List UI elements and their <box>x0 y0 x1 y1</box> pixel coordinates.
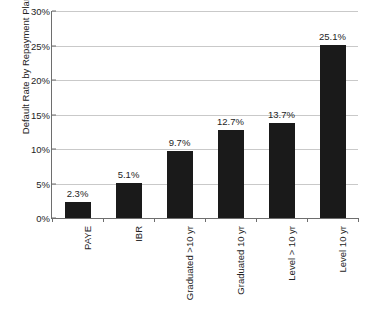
y-tick-mark <box>52 80 56 81</box>
x-category-label: PAYE <box>82 226 96 250</box>
y-tick-label: 10% <box>20 144 50 155</box>
x-tick-mark <box>154 218 155 222</box>
gridline <box>52 184 358 185</box>
chart-title <box>28 0 348 3</box>
x-category-label: IBR <box>133 226 147 242</box>
bar[interactable] <box>65 202 91 218</box>
gridline <box>52 115 358 116</box>
x-category-label: Level > 10 yr <box>286 226 300 281</box>
bar-value-label: 13.7% <box>268 109 295 120</box>
y-tick-mark <box>52 45 56 46</box>
bar-value-label: 2.3% <box>67 188 89 199</box>
y-tick-mark <box>52 11 56 12</box>
plot-area: 2.3%5.1%9.7%12.7%13.7%25.1% <box>52 11 358 218</box>
x-tick-mark <box>205 218 206 222</box>
gridline <box>52 46 358 47</box>
bar-value-label: 5.1% <box>118 169 140 180</box>
bar-value-label: 9.7% <box>169 137 191 148</box>
y-tick-label: 30% <box>20 6 50 17</box>
x-tick-mark <box>52 218 53 222</box>
gridline <box>52 11 358 12</box>
gridline <box>52 149 358 150</box>
y-axis-tick-labels: 0%5%10%15%20%25%30% <box>20 0 50 313</box>
bar-chart: Default Rate by Repayment Plan 0%5%10%15… <box>0 0 370 313</box>
bar[interactable] <box>116 183 142 218</box>
x-tick-mark <box>256 218 257 222</box>
gridline <box>52 80 358 81</box>
y-tick-label: 25% <box>20 40 50 51</box>
y-tick-mark <box>52 114 56 115</box>
y-tick-label: 0% <box>20 213 50 224</box>
x-category-label: Graduated >10 yr <box>184 226 198 300</box>
x-tick-mark <box>103 218 104 222</box>
x-category-label: Level 10 yr <box>337 226 351 272</box>
bar[interactable] <box>320 45 346 218</box>
bar[interactable] <box>269 123 295 218</box>
y-tick-label: 15% <box>20 109 50 120</box>
y-tick-mark <box>52 149 56 150</box>
bar[interactable] <box>218 130 244 218</box>
x-tick-mark <box>307 218 308 222</box>
bar-value-label: 25.1% <box>319 31 346 42</box>
y-tick-label: 5% <box>20 178 50 189</box>
x-category-label: Graduated 10 yr <box>235 226 249 295</box>
y-tick-label: 20% <box>20 75 50 86</box>
bar[interactable] <box>167 151 193 218</box>
y-tick-mark <box>52 183 56 184</box>
x-tick-mark <box>358 218 359 222</box>
bar-value-label: 12.7% <box>217 116 244 127</box>
